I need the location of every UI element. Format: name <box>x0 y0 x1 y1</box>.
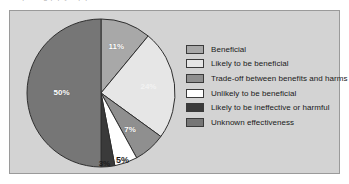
legend-item-label: Likely to be ineffective or harmful <box>211 103 330 112</box>
chart-figure: a o p a o g p p y a p p 11%24%7%5%3%50% … <box>0 0 349 184</box>
legend: BeneficialLikely to be beneficialTrade-o… <box>186 42 336 130</box>
pie-slice-label: 5% <box>116 155 129 165</box>
pie-chart-svg <box>25 17 177 169</box>
pie-slice-label: 24% <box>140 82 156 91</box>
legend-swatch-icon <box>186 59 204 68</box>
legend-swatch-icon <box>186 103 204 112</box>
chart-panel: 11%24%7%5%3%50% BeneficialLikely to be b… <box>9 10 340 174</box>
legend-item[interactable]: Unknown effectiveness <box>186 115 336 130</box>
legend-swatch-icon <box>186 118 204 127</box>
cropped-text-fragment: a o p a o g p p y a p p <box>0 0 349 9</box>
pie-slice-label: 3% <box>99 159 111 168</box>
legend-item[interactable]: Unlikely to be beneficial <box>186 86 336 101</box>
legend-item-label: Likely to be beneficial <box>211 59 289 68</box>
legend-item[interactable]: Trade-off between benefits and harms <box>186 71 336 86</box>
legend-item-label: Trade-off between benefits and harms <box>211 74 348 83</box>
legend-item-label: Unknown effectiveness <box>211 118 294 127</box>
legend-item-label: Unlikely to be beneficial <box>211 89 296 98</box>
pie-chart: 11%24%7%5%3%50% <box>25 17 177 169</box>
legend-item[interactable]: Beneficial <box>186 42 336 57</box>
pie-slice-label: 50% <box>54 88 70 97</box>
legend-item[interactable]: Likely to be ineffective or harmful <box>186 100 336 115</box>
pie-slice-label: 11% <box>109 42 125 51</box>
legend-swatch-icon <box>186 74 204 83</box>
legend-item[interactable]: Likely to be beneficial <box>186 57 336 72</box>
legend-swatch-icon <box>186 89 204 98</box>
pie-slice-label: 7% <box>124 125 136 134</box>
legend-swatch-icon <box>186 45 204 54</box>
legend-item-label: Beneficial <box>211 45 246 54</box>
